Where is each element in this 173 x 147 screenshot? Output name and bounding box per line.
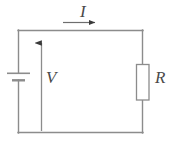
battery-symbol <box>7 73 30 80</box>
circuit-diagram: I V R <box>0 0 173 147</box>
resistor-box <box>137 65 150 101</box>
resistance-label: R <box>155 69 165 86</box>
current-label: I <box>80 3 86 20</box>
circuit-schematic-canvas <box>0 0 173 147</box>
circuit-loop-wires <box>18 30 143 133</box>
voltage-label: V <box>46 69 56 86</box>
